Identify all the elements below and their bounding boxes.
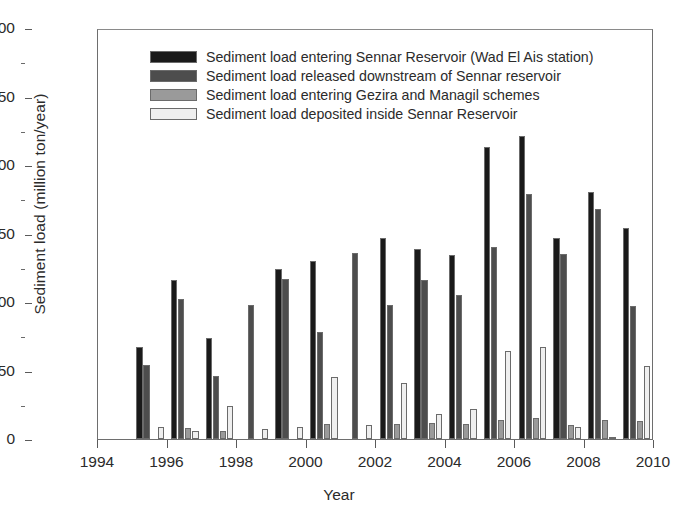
y-tick-mark xyxy=(25,98,32,99)
y-tick-label: 100 xyxy=(0,293,15,311)
x-axis-title: Year xyxy=(0,486,678,504)
y-minor-tick xyxy=(21,132,25,133)
y-tick-label: 300 xyxy=(0,19,15,37)
x-tick-label: 1998 xyxy=(210,453,262,471)
y-tick-label: 250 xyxy=(0,88,15,106)
legend-swatch xyxy=(150,70,197,82)
bar xyxy=(560,254,566,439)
bar xyxy=(227,406,233,439)
bar xyxy=(136,347,142,439)
bar xyxy=(220,431,226,439)
bar xyxy=(380,238,386,439)
x-tick-mark xyxy=(97,440,98,448)
chart-figure: Sediment load (million ton/year) Year 05… xyxy=(0,0,678,523)
legend-swatch xyxy=(150,108,197,120)
bar xyxy=(158,427,164,439)
legend-swatch xyxy=(150,51,197,63)
legend-label: Sediment load deposited inside Sennar Re… xyxy=(206,106,518,122)
x-tick-label: 2006 xyxy=(488,453,540,471)
bar xyxy=(575,427,581,439)
bar xyxy=(401,383,407,439)
x-tick-label: 2004 xyxy=(419,453,471,471)
x-tick-mark xyxy=(514,440,515,448)
y-tick-label: 150 xyxy=(0,225,15,243)
bar xyxy=(456,295,462,439)
bar xyxy=(540,347,546,439)
bar xyxy=(310,261,316,439)
legend-swatch xyxy=(150,89,197,101)
bar xyxy=(429,423,435,439)
x-tick-label: 2010 xyxy=(627,453,678,471)
bar xyxy=(366,425,372,439)
legend-label: Sediment load entering Gezira and Managi… xyxy=(206,87,540,103)
bar xyxy=(553,238,559,439)
bar xyxy=(602,420,608,439)
y-tick-mark xyxy=(25,29,32,30)
bar xyxy=(213,376,219,439)
bar xyxy=(421,280,427,439)
y-tick-mark xyxy=(25,440,32,441)
bar xyxy=(185,428,191,439)
bar xyxy=(387,305,393,439)
y-axis-title: Sediment load (million ton/year) xyxy=(31,34,49,374)
legend-item: Sediment load deposited inside Sennar Re… xyxy=(150,105,593,123)
x-tick-label: 2000 xyxy=(280,453,332,471)
bar xyxy=(519,136,525,439)
y-minor-tick xyxy=(21,269,25,270)
bar xyxy=(609,437,615,439)
bar xyxy=(317,332,323,439)
bar xyxy=(526,194,532,439)
y-tick-label: 50 xyxy=(0,362,15,380)
x-tick-mark xyxy=(653,440,654,448)
x-tick-mark xyxy=(584,440,585,448)
bar xyxy=(644,366,650,439)
bar xyxy=(414,249,420,439)
bar xyxy=(623,228,629,439)
bar xyxy=(588,192,594,439)
y-tick-mark xyxy=(25,372,32,373)
legend: Sediment load entering Sennar Reservoir … xyxy=(150,48,593,124)
x-tick-label: 2008 xyxy=(558,453,610,471)
x-tick-label: 1994 xyxy=(71,453,123,471)
bar xyxy=(275,269,281,439)
y-minor-tick xyxy=(21,200,25,201)
bar xyxy=(324,424,330,439)
x-tick-mark xyxy=(167,440,168,448)
bar xyxy=(192,431,198,439)
y-tick-mark xyxy=(25,166,32,167)
bar xyxy=(491,247,497,439)
bar xyxy=(533,418,539,439)
bar xyxy=(449,255,455,439)
y-tick-mark xyxy=(25,303,32,304)
x-tick-mark xyxy=(236,440,237,448)
bar xyxy=(248,305,254,439)
x-tick-mark xyxy=(306,440,307,448)
bar xyxy=(463,424,469,439)
legend-item: Sediment load entering Sennar Reservoir … xyxy=(150,48,593,66)
bar xyxy=(630,306,636,439)
bar xyxy=(484,147,490,439)
y-minor-tick xyxy=(21,406,25,407)
bar xyxy=(470,409,476,439)
x-tick-label: 1996 xyxy=(141,453,193,471)
bar xyxy=(498,420,504,439)
legend-item: Sediment load released downstream of Sen… xyxy=(150,67,593,85)
y-minor-tick xyxy=(21,337,25,338)
legend-item: Sediment load entering Gezira and Managi… xyxy=(150,86,593,104)
bar xyxy=(637,421,643,439)
bar xyxy=(505,351,511,439)
legend-label: Sediment load released downstream of Sen… xyxy=(206,68,561,84)
bar xyxy=(262,429,268,439)
bar xyxy=(394,424,400,439)
x-tick-mark xyxy=(445,440,446,448)
y-minor-tick xyxy=(21,63,25,64)
y-tick-label: 200 xyxy=(0,156,15,174)
legend-label: Sediment load entering Sennar Reservoir … xyxy=(206,49,593,65)
bar xyxy=(171,280,177,439)
bar xyxy=(297,427,303,439)
x-tick-mark xyxy=(375,440,376,448)
y-tick-mark xyxy=(25,235,32,236)
y-tick-label: 0 xyxy=(6,430,15,448)
bar xyxy=(352,253,358,439)
bar xyxy=(568,425,574,439)
